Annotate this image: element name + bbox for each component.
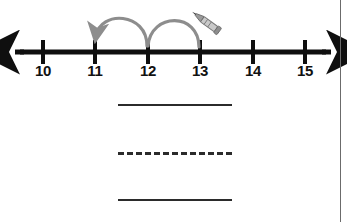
answer-line-1[interactable]	[118, 104, 232, 106]
number-line-graphic	[0, 0, 347, 222]
answer-line-2[interactable]	[118, 152, 232, 155]
jump-arc-2	[148, 21, 199, 47]
tick-label-11: 11	[78, 63, 112, 79]
jump-arc-1	[96, 18, 147, 46]
tick-label-15: 15	[288, 63, 322, 79]
page-right-border	[340, 0, 341, 222]
tick-label-12: 12	[131, 63, 165, 79]
tick-label-13: 13	[183, 63, 217, 79]
worksheet-page: 10 11 12 13 14 15	[0, 0, 347, 222]
tick-label-10: 10	[26, 63, 60, 79]
answer-line-3[interactable]	[118, 199, 232, 201]
tick-label-14: 14	[236, 63, 270, 79]
